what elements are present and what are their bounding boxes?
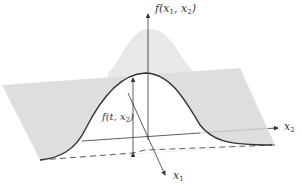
figure-canvas [0,0,302,191]
slice-label: f(t, x2) [102,112,134,124]
x2-axis-arrow [268,128,278,129]
x2-axis-label: x2 [284,121,295,134]
x1-axis-label: x1 [173,170,184,183]
z-axis-label: f(x1, x2) [155,3,196,16]
surface-peak [108,29,193,78]
